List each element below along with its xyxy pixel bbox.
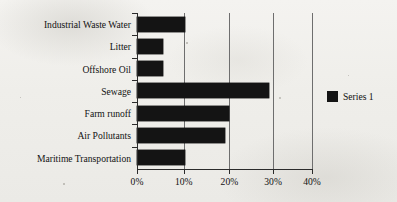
- scan-speck: [63, 183, 65, 185]
- value-tick-30: [273, 169, 274, 174]
- value-axis-label-10: 10%: [175, 176, 193, 187]
- category-tick: [132, 80, 137, 81]
- category-tick: [132, 147, 137, 148]
- category-label-farm-runoff: Farm runoff: [85, 108, 131, 119]
- category-label-industrial-waste-water: Industrial Waste Water: [44, 19, 131, 30]
- value-tick-0: [137, 169, 138, 174]
- bar-industrial-waste-water: [137, 17, 185, 32]
- bar-row: [137, 58, 163, 80]
- bar-chart: Industrial Waste Water Litter Offshore O…: [0, 0, 397, 202]
- category-tick: [132, 124, 137, 125]
- category-label-sewage: Sewage: [101, 86, 131, 97]
- category-label-offshore-oil: Offshore Oil: [82, 64, 131, 75]
- bar-row: [137, 80, 269, 102]
- category-label-litter: Litter: [110, 41, 131, 52]
- plot-area: [137, 13, 313, 169]
- bar-air-pollutants: [137, 128, 225, 143]
- category-tick: [132, 102, 137, 103]
- value-axis-label-20: 20%: [221, 176, 239, 187]
- category-label-maritime-transportation: Maritime Transportation: [37, 153, 131, 164]
- bar-farm-runoff: [137, 106, 229, 121]
- value-tick-40: [312, 169, 313, 174]
- bar-row: [137, 35, 163, 57]
- bar-maritime-transportation: [137, 150, 185, 165]
- bar-row: [137, 13, 185, 35]
- bar-offshore-oil: [137, 61, 163, 76]
- value-axis-label-0: 0%: [131, 176, 144, 187]
- legend-label-series-1: Series 1: [343, 91, 374, 102]
- bar-litter: [137, 39, 163, 54]
- bar-row: [137, 147, 185, 169]
- bar-sewage: [137, 83, 269, 98]
- value-tick-10: [184, 169, 185, 174]
- value-axis-label-40: 40%: [303, 176, 321, 187]
- chart-legend: Series 1: [327, 91, 374, 102]
- value-tick-20: [229, 169, 230, 174]
- value-axis-label-30: 30%: [264, 176, 282, 187]
- category-tick: [132, 13, 137, 14]
- category-tick: [132, 35, 137, 36]
- legend-swatch-series-1: [327, 91, 338, 102]
- category-axis-line: [137, 169, 313, 170]
- bar-row: [137, 124, 225, 146]
- scan-speck: [20, 97, 21, 98]
- bars-layer: [137, 13, 313, 169]
- bar-row: [137, 102, 229, 124]
- value-axis-line: [137, 13, 138, 170]
- scan-speck: [348, 75, 349, 76]
- category-label-air-pollutants: Air Pollutants: [77, 130, 131, 141]
- category-tick: [132, 58, 137, 59]
